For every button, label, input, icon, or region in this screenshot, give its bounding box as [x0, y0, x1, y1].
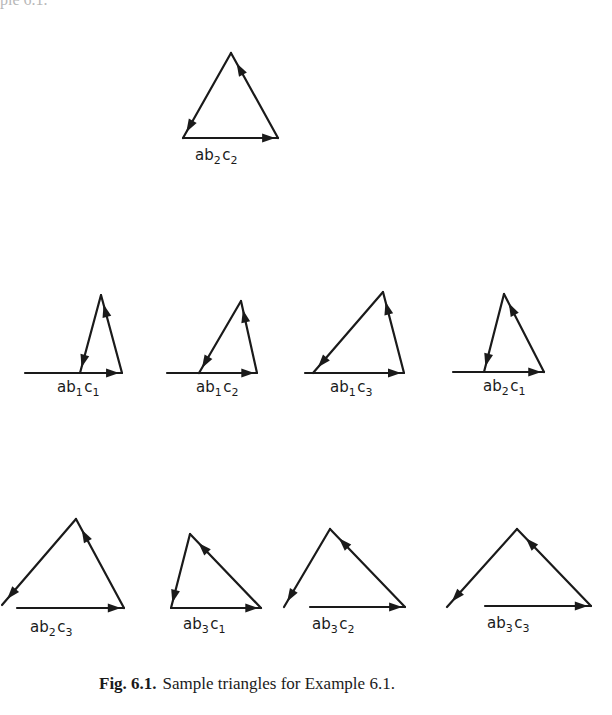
triangle-label: ab1 c3 — [330, 378, 374, 399]
figure-caption: Fig. 6.1.Sample triangles for Example 6.… — [99, 674, 395, 694]
arrowhead-icon — [575, 602, 588, 611]
arrowhead-icon — [484, 353, 493, 367]
arrowhead-icon — [103, 304, 112, 318]
triangle-ab3c2: ab3 c2 — [284, 529, 405, 636]
arrowhead-icon — [287, 588, 297, 601]
arrowhead-icon — [528, 368, 541, 377]
arrowhead-icon — [384, 302, 393, 316]
triangle-label: ab2 c3 — [30, 618, 74, 639]
triangle-label: ab2 c2 — [195, 146, 239, 167]
triangle-ab3c3: ab3 c3 — [447, 529, 591, 635]
arrowhead-icon — [388, 369, 401, 378]
triangle-label: ab3 c2 — [312, 615, 356, 636]
arrowhead-icon — [509, 303, 519, 317]
caption-text: Sample triangles for Example 6.1. — [163, 674, 395, 693]
arrowhead-icon — [237, 63, 247, 77]
arrowhead-icon — [241, 369, 254, 378]
arrowhead-icon — [171, 589, 180, 603]
triangle-ab3c1: ab3 c1 — [171, 534, 261, 636]
arrowhead-icon — [81, 354, 90, 368]
triangle-ab1c1: ab1 c1 — [25, 295, 122, 399]
arrowhead-icon — [389, 603, 402, 612]
triangle-label: ab2 c1 — [483, 377, 527, 398]
triangle-ab2c2: ab2 c2 — [183, 53, 278, 167]
arrowhead-icon — [106, 369, 119, 378]
triangle-ab2c3: ab2 c3 — [2, 519, 124, 639]
triangle-diagram: ab2 c2 ab1 c1 ab1 c2 ab1 c3 ab2 c1 ab2 c… — [0, 0, 612, 715]
arrowhead-icon — [82, 530, 92, 544]
triangle-label: ab1 c2 — [196, 378, 240, 399]
triangle-label: ab1 c1 — [57, 378, 101, 399]
arrowhead-icon — [245, 604, 258, 613]
triangle-ab1c3: ab1 c3 — [305, 292, 404, 399]
triangles-layer: ab2 c2 ab1 c1 ab1 c2 ab1 c3 ab2 c1 ab2 c… — [2, 53, 591, 639]
arrowhead-icon — [186, 119, 196, 133]
figure-number: Fig. 6.1. — [99, 674, 157, 693]
arrowhead-icon — [108, 604, 121, 613]
triangle-ab1c2: ab1 c2 — [167, 301, 257, 399]
arrowhead-icon — [262, 134, 275, 143]
arrowhead-icon — [202, 354, 212, 367]
triangle-ab2c1: ab2 c1 — [453, 294, 544, 398]
triangle-label: ab3 c3 — [487, 614, 531, 635]
triangle-label: ab3 c1 — [183, 615, 227, 636]
